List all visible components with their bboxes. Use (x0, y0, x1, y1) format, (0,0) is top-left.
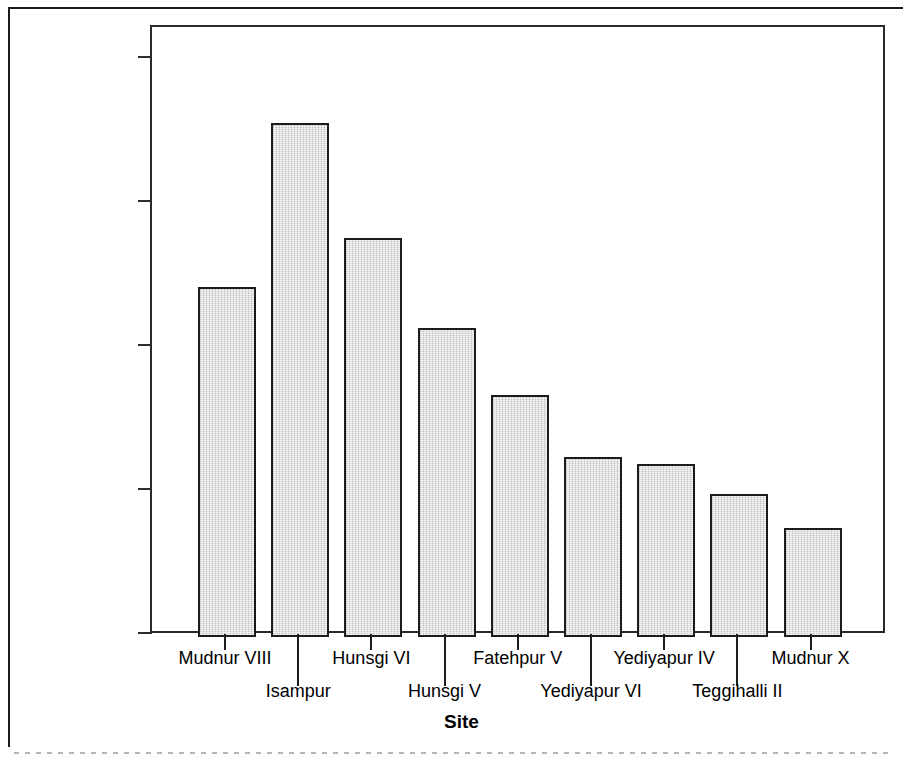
bar (198, 287, 256, 637)
bar (784, 528, 842, 637)
y-tick-mark (138, 488, 152, 490)
bar (344, 238, 402, 637)
y-tick-mark (138, 56, 152, 58)
bar (491, 395, 549, 637)
bar (637, 464, 695, 637)
x-axis-title: Site (0, 711, 907, 733)
bar (271, 123, 329, 637)
page-border-top (8, 7, 903, 9)
bar (710, 494, 768, 637)
figure-page: Mean Flake Scar Area in square mm 0.0050… (0, 0, 907, 764)
x-tick-label: Mudnur X (721, 648, 901, 669)
y-axis-title: Mean Flake Scar Area in square mm (0, 101, 1, 521)
x-axis-title-text: Site (444, 711, 479, 732)
y-tick-mark (138, 200, 152, 202)
bar (564, 457, 622, 637)
y-tick-mark (138, 344, 152, 346)
x-tick-label: Teggihalli II (647, 681, 827, 702)
bar (418, 328, 476, 637)
scan-artifact-line (14, 752, 894, 754)
y-tick-mark (138, 632, 152, 634)
plot-area (150, 25, 885, 633)
page-border-left (8, 7, 10, 747)
